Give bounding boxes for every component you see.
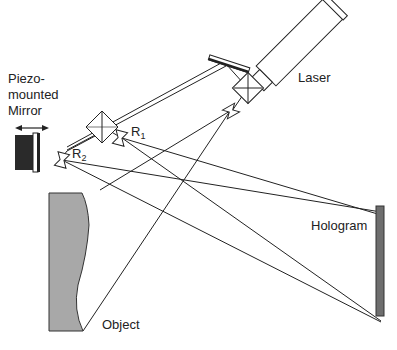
r1-label: R1 [131,124,145,141]
folding-mirror [208,55,250,73]
piezo-label-3: Mirror [8,103,43,118]
laser-label: Laser [298,70,331,85]
piezo-label-1: Piezo- [8,71,45,86]
beam-mirror-to-piezo-b [67,66,226,151]
beam-paths [60,62,381,331]
lens-r1 [112,130,127,147]
piezo-mounted-mirror [15,133,40,172]
beam-object-fan-lower [83,111,230,331]
object-label: Object [102,317,140,332]
hologram-label: Hologram [311,218,367,233]
hologram [376,206,384,316]
piezo-label-2: mounted [8,87,59,102]
holography-diagram: Laser R1 [0,0,397,350]
beam-r2-lower [62,160,381,322]
lens-r2 [54,152,69,169]
object-beam-lens [222,103,239,119]
r2-label: R2 [72,146,86,163]
double-arrow-icon [15,125,49,131]
piezo-block [15,135,33,170]
object [49,193,89,331]
